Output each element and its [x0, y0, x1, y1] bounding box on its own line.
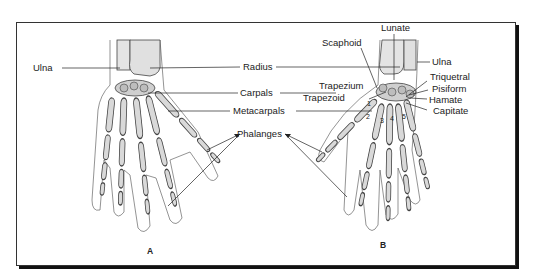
label-metacarpals: Metacarpals [233, 106, 285, 116]
label-ulna-b: Ulna [432, 57, 452, 67]
label-capitate: Capitate [433, 106, 468, 116]
hand-b [315, 40, 431, 231]
label-pisiform: Pisiform [432, 84, 466, 94]
label-trapezoid: Trapezoid [303, 93, 345, 103]
metacarpal-number-2: 2 [366, 113, 370, 120]
label-phalanges: Phalanges [237, 129, 282, 139]
label-lunate: Lunate [381, 23, 410, 33]
label-hamate: Hamate [429, 95, 462, 105]
label-carpals: Carpals [240, 88, 273, 98]
metacarpal-number-3: 3 [380, 117, 384, 124]
caption-b: B [380, 240, 386, 250]
label-ulna-a: Ulna [33, 63, 53, 73]
label-scaphoid: Scaphoid [322, 38, 362, 48]
label-trapezium: Trapezium [319, 81, 364, 91]
metacarpal-number-5: 5 [402, 113, 406, 120]
hand-skeleton-diagram [0, 0, 533, 280]
caption-a: A [147, 246, 153, 256]
hand-a [92, 40, 221, 232]
metacarpal-number-1: 1 [367, 100, 371, 107]
label-radius: Radius [243, 62, 273, 72]
label-triquetral: Triquetral [430, 72, 470, 82]
metacarpal-number-4: 4 [390, 115, 394, 122]
